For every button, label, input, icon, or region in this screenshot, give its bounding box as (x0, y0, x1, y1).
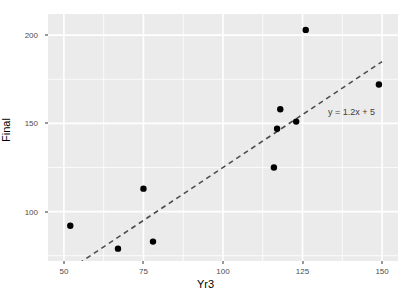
y-tick-mark (45, 35, 48, 36)
data-point (293, 118, 299, 124)
x-tick-mark (382, 261, 383, 264)
data-point (150, 238, 156, 244)
data-point (115, 245, 121, 251)
y-tick-label: 200 (12, 31, 38, 40)
y-tick-mark (45, 211, 48, 212)
data-point (271, 164, 277, 170)
x-tick-mark (302, 261, 303, 264)
plot-panel (48, 14, 398, 261)
x-tick-label: 75 (139, 267, 148, 276)
data-point (67, 223, 73, 229)
data-point (376, 81, 382, 87)
data-point (140, 185, 146, 191)
chart-figure: 100150200 5075100125150 y = 1.2x + 5 Yr3… (0, 0, 411, 300)
x-tick-label: 50 (59, 267, 68, 276)
x-tick-mark (143, 261, 144, 264)
regression-equation-label: y = 1.2x + 5 (328, 107, 375, 117)
x-tick-label: 150 (375, 267, 388, 276)
x-axis-title: Yr3 (0, 278, 411, 290)
data-point (277, 106, 283, 112)
y-tick-label: 100 (12, 207, 38, 216)
x-tick-label: 125 (296, 267, 309, 276)
data-point (274, 125, 280, 131)
x-tick-mark (63, 261, 64, 264)
data-point (303, 27, 309, 33)
y-tick-label: 150 (12, 119, 38, 128)
y-tick-mark (45, 123, 48, 124)
x-tick-label: 100 (216, 267, 229, 276)
x-tick-mark (223, 261, 224, 264)
plot-canvas (48, 14, 398, 261)
y-axis-title: Final (0, 70, 12, 190)
